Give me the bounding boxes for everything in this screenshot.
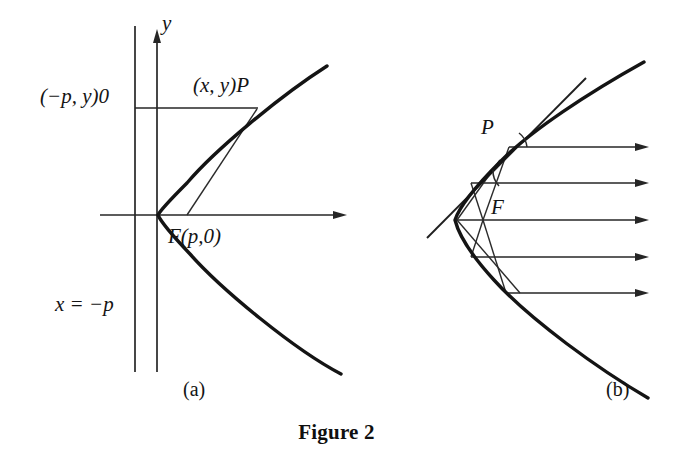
ray-arrowhead-1 [635, 143, 649, 151]
label-y-axis: y [160, 11, 172, 35]
label-directrix-point: (−p, y)0 [40, 84, 109, 108]
ray-group [457, 143, 649, 297]
caption-panel-b: (b) [606, 378, 629, 401]
panel-b-group: P F [427, 62, 649, 398]
ray-arrowhead-4 [635, 253, 649, 261]
figure-2-svg: (−p, y)0 y (x, y)P F(p,0) x = −p [0, 0, 673, 457]
label-focus-a: F(p,0) [167, 224, 221, 248]
label-focus-b: F [490, 195, 504, 219]
figure-container: (−p, y)0 y (x, y)P F(p,0) x = −p [0, 0, 673, 457]
caption-panel-a: (a) [183, 378, 205, 401]
label-point-p-b: P [480, 115, 494, 139]
tangent-line [427, 78, 586, 238]
panel-a-group: (−p, y)0 y (x, y)P F(p,0) x = −p [40, 11, 347, 374]
label-directrix-equation: x = −p [54, 292, 114, 316]
x-axis-arrowhead [333, 211, 347, 219]
label-point-p: (x, y)P [193, 73, 249, 97]
ray-arrowhead-3 [635, 216, 649, 224]
parabola-curve-a [158, 66, 341, 374]
ray-arrowhead-2 [635, 179, 649, 187]
figure-title: Figure 2 [0, 420, 673, 445]
y-axis-arrowhead [153, 29, 161, 43]
ray-arrowhead-5 [635, 289, 649, 297]
